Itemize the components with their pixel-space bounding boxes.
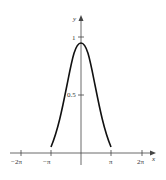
label-negpi: −π bbox=[43, 158, 51, 166]
label-neg2pi: −2π bbox=[11, 158, 22, 166]
y-axis-label: y bbox=[72, 15, 77, 23]
label-pi: π bbox=[109, 158, 113, 166]
x-axis-label: x bbox=[151, 155, 156, 163]
label-2pi: 2π bbox=[137, 158, 145, 166]
label-half: 0.5 bbox=[67, 91, 76, 99]
chart: −2π −π π 2π x y 1 0.5 bbox=[0, 0, 166, 180]
y-axis-arrow-icon bbox=[79, 15, 84, 21]
label-one: 1 bbox=[72, 34, 76, 42]
